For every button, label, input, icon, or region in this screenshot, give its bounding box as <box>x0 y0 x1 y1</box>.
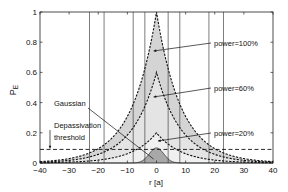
x-axis-label: r [a] <box>149 178 163 187</box>
x-tick-label: 10 <box>181 166 190 175</box>
x-tick-label: −10 <box>121 166 135 175</box>
annotation-depassivation: Depassivation <box>54 121 101 130</box>
y-tick-label: 0 <box>33 159 38 168</box>
y-tick-label: 0.8 <box>26 38 38 47</box>
y-tick-label: 0.4 <box>26 99 38 108</box>
y-tick-label: 0.6 <box>26 68 38 77</box>
annotation-threshold: threshold <box>54 133 85 142</box>
x-tick-label: −30 <box>62 166 76 175</box>
chart: −40−30−20−1001020304000.20.40.60.81 PE r… <box>0 0 288 192</box>
x-tick-label: −20 <box>91 166 105 175</box>
x-tick-label: 40 <box>269 166 278 175</box>
annotation-power-60: power=60% <box>214 84 254 93</box>
y-axis-label: PE <box>8 84 19 95</box>
annotation-power-20: power=20% <box>214 129 254 138</box>
x-tick-label: 0 <box>154 166 159 175</box>
y-tick-label: 0.2 <box>26 129 38 138</box>
annotation-gaussian: Gaussian <box>54 99 86 108</box>
x-tick-label: 20 <box>210 166 219 175</box>
y-tick-label: 1 <box>33 8 38 17</box>
y-axis-label-sub: E <box>12 84 19 89</box>
x-tick-label: 30 <box>239 166 248 175</box>
arrow-threshold-head <box>49 146 52 149</box>
annotation-power-100: power=100% <box>214 39 258 48</box>
